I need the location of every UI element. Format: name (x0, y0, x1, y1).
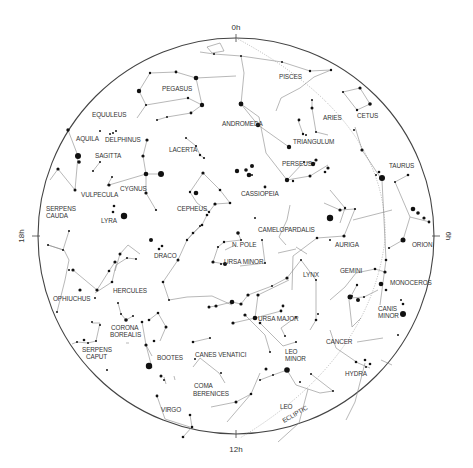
star (407, 174, 410, 177)
star (112, 132, 114, 134)
star (330, 69, 332, 71)
star (271, 285, 273, 287)
star (259, 322, 262, 325)
constellation-label: CETUS (357, 112, 378, 119)
star (269, 351, 271, 353)
star (78, 288, 81, 291)
star (358, 86, 361, 89)
hour-labels: 0h6h12h18h (17, 23, 453, 454)
star (364, 359, 367, 362)
star (254, 217, 256, 219)
star (264, 186, 267, 189)
star (107, 183, 110, 186)
star (259, 379, 261, 381)
constellation-label: BOOTES (157, 354, 183, 361)
star (379, 175, 385, 181)
constellation-label: EQUULEUS (92, 111, 126, 119)
star (108, 270, 111, 273)
constellation-line (353, 210, 392, 220)
constellation-label: ARIES (323, 114, 342, 121)
constellation-label: CAUDA (46, 212, 69, 219)
star (99, 130, 101, 132)
star (243, 313, 246, 316)
star (111, 281, 114, 284)
star (250, 164, 254, 168)
star (156, 119, 158, 121)
star (324, 171, 327, 174)
constellation-line (209, 278, 287, 307)
constellation-label: SERPENS (46, 205, 76, 212)
constellation-label: AQUILA (76, 135, 100, 143)
star (177, 259, 180, 262)
star (246, 293, 249, 296)
star (192, 232, 195, 235)
constellation-label: N. POLE (232, 241, 257, 248)
star (219, 189, 222, 192)
constellation-label: MINOR (285, 355, 306, 362)
star (298, 119, 301, 122)
star (91, 321, 93, 323)
star (355, 361, 358, 364)
star (309, 175, 312, 178)
constellation-label: CANCER (326, 338, 353, 345)
constellation-label: HERCULES (113, 287, 147, 294)
constellation-line (227, 394, 251, 422)
constellation-label: SERPENS (82, 346, 112, 353)
star (397, 334, 399, 336)
star (201, 224, 204, 227)
star (56, 167, 59, 170)
star (163, 379, 165, 381)
star (145, 104, 147, 106)
star (112, 211, 115, 214)
constellation-label: LEO (285, 348, 298, 355)
constellation-label: URSA MAJOR (258, 315, 299, 322)
star (284, 335, 286, 337)
constellation-line (296, 247, 307, 254)
constellation-label: PEGASUS (162, 85, 192, 92)
star (191, 426, 194, 429)
star (314, 158, 317, 161)
constellation-label: CAMELOPARDALIS (258, 226, 315, 233)
constellation-label: COMA (194, 382, 214, 389)
star (265, 368, 268, 371)
constellation-line (193, 358, 225, 383)
star (360, 148, 363, 151)
star (119, 253, 122, 256)
star (244, 168, 248, 172)
constellation-line (207, 43, 224, 53)
star (385, 289, 388, 292)
constellation-label: MINOR (378, 312, 399, 319)
chart-rim (32, 34, 440, 438)
constellation-label: LACERTA (169, 146, 198, 153)
star (402, 303, 405, 306)
star (309, 70, 311, 72)
star (211, 260, 214, 263)
star (95, 288, 98, 291)
constellation-line (149, 313, 158, 320)
star (292, 180, 294, 182)
star (199, 225, 201, 227)
star (56, 311, 58, 313)
star (220, 372, 222, 374)
constellation-line (287, 165, 328, 180)
star (87, 342, 89, 344)
constellation-label: TRIANGULUM (293, 138, 334, 145)
star (175, 71, 178, 74)
constellation-label: CAPUT (86, 353, 107, 360)
constellation-line (241, 56, 289, 147)
star (378, 171, 381, 174)
star (239, 302, 242, 305)
star (311, 99, 313, 101)
constellation-line (287, 260, 301, 278)
star (411, 207, 416, 212)
star (369, 363, 372, 366)
star (239, 102, 244, 107)
constellation-label: OPHIUCHUS (53, 295, 90, 302)
star (203, 157, 205, 159)
constellation-label: ANDROMEDA (222, 120, 263, 127)
star (326, 166, 329, 169)
hour-label: 12h (229, 445, 242, 454)
star (149, 72, 151, 74)
hour-label: 6h (444, 232, 453, 241)
constellation-line (73, 262, 115, 290)
